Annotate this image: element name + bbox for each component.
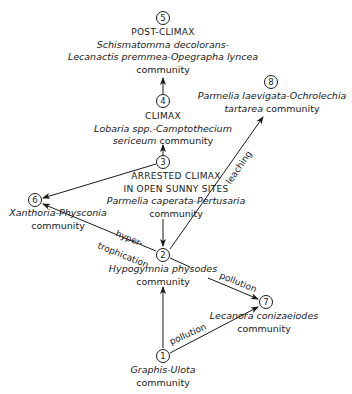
node-7-label: Lecanora conizaeiodes community [210,310,318,335]
node-5-suffix: community [68,64,258,77]
node-2-suffix: community [109,276,217,289]
node-3-suffix: community [107,208,246,221]
node-2-label: Hypogymnia physodes community [109,263,217,288]
node-6-number: 6 [28,193,42,207]
node-5-number: 5 [156,11,170,25]
node-3-species: Parmelia caperata-Pertusaria [107,195,246,208]
node-4-stage: CLIMAX [94,110,232,123]
node-6-label: Xanthoria-Physconia community [9,207,107,232]
node-8-suffix: community [266,103,320,114]
node-8-number: 8 [264,75,278,89]
node-5-stage: POST-CLIMAX [68,26,258,39]
node-1-suffix: community [130,377,195,390]
node-4-suffix: community [160,135,214,146]
node-8-species-line1: Parmelia laevigata-Ochrolechia [198,90,347,103]
node-4-label: CLIMAX Lobaria spp.-Camptothecium serice… [94,110,232,148]
node-7-suffix: community [210,323,318,336]
node-2-number: 2 [156,248,170,262]
node-4-number: 4 [156,94,170,108]
lichen-succession-diagram: 5 POST-CLIMAX Schismatomma decolorans- L… [0,0,352,394]
node-5-species-line1: Schismatomma decolorans- [68,39,258,52]
node-3-stage-line2: IN OPEN SUNNY SITES [107,183,246,196]
node-6-species: Xanthoria-Physconia [9,207,107,220]
node-6-suffix: community [9,220,107,233]
node-1-species: Graphis-Ulota [130,364,195,377]
node-1-label: Graphis-Ulota community [130,364,195,389]
node-5-label: POST-CLIMAX Schismatomma decolorans- Lec… [68,26,258,76]
node-1-number: 1 [156,349,170,363]
node-7-species: Lecanora conizaeiodes [210,310,318,323]
node-3-number: 3 [156,155,170,169]
node-7-number: 7 [259,295,273,309]
node-4-species-line1: Lobaria spp.-Camptothecium [94,123,232,136]
node-4-species-line2: sericeum [113,135,157,146]
node-2-species: Hypogymnia physodes [109,263,217,276]
node-5-species-line2: Lecanactis premmea-Opegrapha lyncea [68,51,258,64]
